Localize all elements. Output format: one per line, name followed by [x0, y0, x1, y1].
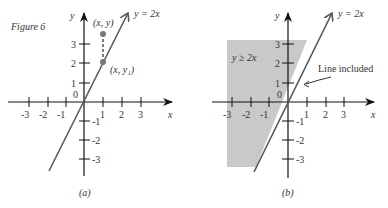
- annotation-arrow: [306, 77, 331, 84]
- x-tick-label: 3: [138, 109, 143, 120]
- y-tick-label: -2: [92, 135, 100, 146]
- y-axis-label: y: [274, 10, 280, 21]
- point-lower: [100, 59, 106, 65]
- y-tick-label: -1: [92, 116, 100, 127]
- x-axis-label: x: [370, 109, 376, 120]
- figure-title: Figure 6: [10, 21, 45, 32]
- line-y-equals-2x: [49, 13, 128, 171]
- panel-a: Figure 6 y x y = 2x (x, y) (x, y₁) 0 -3 …: [8, 8, 173, 199]
- point-upper-label: (x, y): [93, 17, 114, 29]
- x-tick-label: 1: [100, 109, 105, 120]
- annotation-label: Line included: [318, 63, 373, 74]
- y-tick-label: 1: [275, 78, 280, 89]
- point-upper: [100, 31, 106, 37]
- y-tick-label: -3: [92, 154, 100, 165]
- x-tick-label: 2: [323, 109, 328, 120]
- y-tick-label: 3: [275, 39, 280, 50]
- y-tick-label: -3: [296, 154, 304, 165]
- y-tick-label: 2: [275, 58, 280, 69]
- x-tick-label: 3: [341, 109, 346, 120]
- origin-label: 0: [277, 89, 282, 100]
- x-tick-label: -3: [21, 109, 29, 120]
- origin-label: 0: [73, 89, 78, 100]
- x-axis-label: x: [167, 109, 173, 120]
- x-tick-label: -1: [260, 109, 268, 120]
- y-axis-label: y: [69, 10, 75, 21]
- x-tick-label: -1: [57, 109, 65, 120]
- y-tick-label: 3: [71, 39, 76, 50]
- y-tick-label: -1: [296, 116, 304, 127]
- line-label: y = 2x: [337, 8, 364, 19]
- x-tick-label: 2: [119, 109, 124, 120]
- x-tick-label: -2: [242, 109, 250, 120]
- y-tick-label: -2: [296, 135, 304, 146]
- line-label: y = 2x: [133, 8, 160, 19]
- x-tick-label: 1: [304, 109, 309, 120]
- x-tick-label: -2: [39, 109, 47, 120]
- panel-b: y x y = 2x y ≥ 2x Line included 0 -3 -2 …: [212, 8, 376, 199]
- y-tick-label: 1: [71, 78, 76, 89]
- region-label: y ≥ 2x: [231, 52, 257, 63]
- panel-b-caption: (b): [282, 187, 294, 199]
- x-tick-label: -3: [223, 109, 231, 120]
- y-tick-label: 2: [71, 58, 76, 69]
- figure-canvas: Figure 6 y x y = 2x (x, y) (x, y₁) 0 -3 …: [0, 0, 388, 208]
- panel-a-caption: (a): [79, 187, 91, 199]
- point-lower-label: (x, y₁): [110, 64, 135, 76]
